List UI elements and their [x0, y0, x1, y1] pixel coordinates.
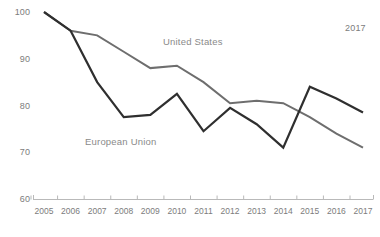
x-tick-label-2011: 2011 — [189, 206, 219, 216]
y-tick-label-70: 70 — [4, 147, 30, 157]
series-line-united-states — [44, 12, 363, 148]
series-label-united-states: United States — [163, 36, 223, 47]
x-tick-label-2008: 2008 — [109, 206, 139, 216]
x-tick-label-2014: 2014 — [268, 206, 298, 216]
x-tick-label-2017: 2017 — [348, 206, 378, 216]
x-tick-label-2012: 2012 — [215, 206, 245, 216]
x-tick-label-2010: 2010 — [162, 206, 192, 216]
y-tick-label-60: 60 — [4, 194, 30, 204]
axis-group — [31, 195, 374, 200]
line-chart: 10090807060 2005200620072008200920102011… — [0, 0, 380, 237]
x-tick-label-2009: 2009 — [135, 206, 165, 216]
series-label-european-union: European Union — [85, 136, 156, 147]
x-tick-label-2016: 2016 — [321, 206, 351, 216]
x-tick-label-2006: 2006 — [56, 206, 86, 216]
y-tick-label-80: 80 — [4, 101, 30, 111]
series-line-european-union — [44, 12, 363, 148]
y-tick-label-100: 100 — [4, 7, 30, 17]
year-annotation: 2017 — [345, 23, 366, 33]
y-tick-label-90: 90 — [4, 54, 30, 64]
x-tick-label-2005: 2005 — [29, 206, 59, 216]
x-tick-label-2015: 2015 — [295, 206, 325, 216]
x-tick-label-2007: 2007 — [82, 206, 112, 216]
x-tick-label-2013: 2013 — [242, 206, 272, 216]
